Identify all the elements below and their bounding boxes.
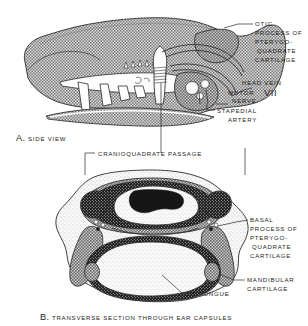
- label-line: CARTILAGE: [250, 252, 291, 259]
- label-line: PROCESS OF: [255, 29, 302, 36]
- mandibular-cartilage-right: [205, 263, 220, 282]
- caption-text: SIDE VIEW: [28, 135, 66, 142]
- label-line: CARTILAGE: [255, 56, 296, 63]
- label-line: MOTOR: [228, 89, 254, 96]
- label-line: CARTILAGE: [247, 285, 288, 292]
- label-line: PTERYGO-: [250, 234, 288, 241]
- caption-letter: B.: [40, 312, 49, 322]
- caption-letter: A.: [16, 133, 25, 143]
- label-line: QUADRATE: [257, 47, 296, 54]
- mandibular-cartilage-left: [85, 263, 100, 282]
- label-line: STAPEDIAL: [217, 107, 257, 114]
- anatomical-figure: OTIC PROCESS OF PTERYGO- QUADRATE CARTIL…: [0, 0, 308, 326]
- label-tongue: TONGUE: [199, 290, 229, 297]
- brain-mass: [129, 190, 183, 213]
- label-line: PROCESS OF: [250, 225, 297, 232]
- label-line: NERVE: [232, 97, 257, 104]
- label-line: ARTERY: [228, 116, 257, 123]
- label-line: BASAL: [250, 216, 273, 223]
- label-head-vein: HEAD VEIN: [242, 79, 282, 86]
- label-line: OTIC: [255, 20, 273, 27]
- label-line: QUADRATE: [252, 243, 291, 250]
- label-line: MANDIBULAR: [247, 276, 294, 283]
- caption-text: TRANSVERSE SECTION THROUGH EAR CAPSULES: [52, 314, 232, 321]
- figure-svg: OTIC PROCESS OF PTERYGO- QUADRATE CARTIL…: [0, 0, 308, 326]
- panel-a-caption: A. SIDE VIEW: [16, 133, 66, 143]
- label-line: PTERYGO-: [255, 38, 293, 45]
- label-roman-numeral: VII: [264, 87, 277, 98]
- tongue-body: [94, 242, 209, 296]
- panel-b-caption: B. TRANSVERSE SECTION THROUGH EAR CAPSUL…: [40, 312, 232, 322]
- bracket-label: CRANIOQUADRATE PASSAGE: [98, 150, 202, 157]
